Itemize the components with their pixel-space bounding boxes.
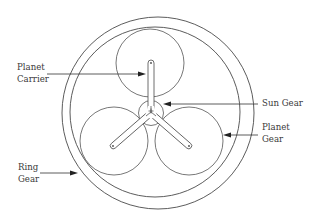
arrowhead-icon [70, 171, 78, 176]
label-line: Planet [262, 122, 290, 134]
arrowhead-icon [223, 133, 231, 138]
label-line: Ring [18, 162, 39, 174]
label-ring-gear: Ring Gear [18, 162, 39, 185]
planet-carrier [109, 60, 193, 150]
label-line: Gear [262, 134, 290, 146]
label-line: Carrier [17, 74, 49, 86]
pin-bottom-right [188, 145, 190, 147]
label-line: Gear [18, 174, 39, 186]
carrier-arm-top [148, 60, 154, 113]
arrowhead-icon [138, 72, 146, 77]
label-line: Sun Gear [262, 98, 303, 110]
pin-bottom-left [112, 145, 114, 147]
label-line: Planet [17, 62, 49, 74]
ring-gear [62, 17, 254, 209]
label-planet-gear: Planet Gear [262, 122, 290, 145]
planetary-gear-diagram: Planet Carrier Sun Gear Planet Gear Ring… [0, 0, 315, 219]
ring-gear-outer [62, 17, 254, 209]
diagram-canvas [0, 0, 315, 219]
pin-top [150, 62, 152, 64]
arrowhead-icon [163, 102, 171, 107]
label-planet-carrier: Planet Carrier [17, 62, 49, 85]
planet-gear-bottom-right [155, 107, 223, 175]
label-sun-gear: Sun Gear [262, 98, 303, 110]
